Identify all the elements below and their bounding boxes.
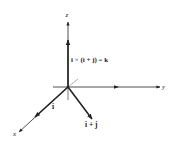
z-axis-label: z — [66, 12, 69, 19]
vector-i-plus-j-label: i + j — [85, 121, 98, 129]
vector-i-label: i — [52, 103, 54, 111]
vector-i-plus-j — [68, 87, 92, 119]
origin-point — [67, 86, 70, 89]
y-axis-label: y — [162, 84, 165, 91]
equation-left: i — [71, 56, 73, 64]
y-axis-mid-arrow-icon — [114, 85, 119, 88]
equation-operator: × — [75, 56, 79, 64]
equation-result: k — [104, 56, 108, 64]
cross-product-equation: i × (i + j) = k — [71, 57, 108, 64]
equation-right: (i + j) — [80, 56, 96, 64]
equation-equals: = — [99, 56, 103, 64]
x-axis-label: x — [13, 131, 16, 138]
back-diagonal-line — [68, 79, 78, 87]
